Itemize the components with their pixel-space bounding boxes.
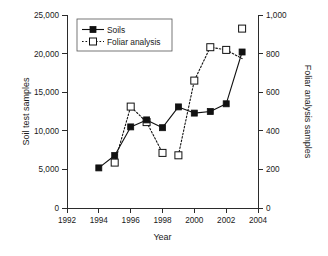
x-tick-label-2000: 2000 bbox=[185, 216, 204, 225]
foliar-point-1999 bbox=[175, 152, 182, 159]
soils-point-1995 bbox=[112, 153, 118, 159]
x-tick-label-1998: 1998 bbox=[153, 216, 172, 225]
soils-point-1998 bbox=[160, 125, 166, 131]
foliar-point-2003 bbox=[239, 25, 246, 32]
foliar-point-2001 bbox=[207, 44, 214, 51]
foliar-point-1998 bbox=[159, 149, 166, 156]
legend-marker-foliar-analysis bbox=[90, 38, 97, 45]
x-tick-label-1996: 1996 bbox=[122, 216, 141, 225]
legend-label-foliar-analysis: Foliar analysis bbox=[107, 37, 161, 47]
foliar-point-1996 bbox=[127, 103, 134, 110]
right-tick-label-0: 0 bbox=[266, 204, 271, 213]
right-tick-label-400: 400 bbox=[266, 127, 280, 136]
y-axis-title: Soil test samples bbox=[21, 77, 31, 146]
soils-point-2002 bbox=[223, 101, 229, 107]
left-tick-label-25000: 25,000 bbox=[34, 11, 59, 20]
right-tick-label-600: 600 bbox=[266, 88, 280, 97]
right-tick-label-800: 800 bbox=[266, 50, 280, 59]
x-tick-label-2004: 2004 bbox=[249, 216, 268, 225]
foliar-point-2000 bbox=[191, 77, 198, 84]
soils-point-1996 bbox=[128, 124, 134, 130]
soils-point-2003 bbox=[239, 49, 245, 55]
right-tick-label-1000: 1,000 bbox=[266, 11, 287, 20]
left-tick-label-10000: 10,000 bbox=[34, 127, 59, 136]
left-tick-label-0: 0 bbox=[54, 204, 59, 213]
x-tick-label-1992: 1992 bbox=[58, 216, 77, 225]
legend-label-soils: Soils bbox=[107, 25, 125, 35]
chart-legend: Soils Foliar analysis bbox=[77, 19, 172, 51]
soils-point-1997 bbox=[144, 117, 150, 123]
legend-item-foliar-analysis: Foliar analysis bbox=[82, 37, 161, 47]
foliar-point-1995 bbox=[111, 159, 118, 166]
soils-point-1994 bbox=[96, 165, 102, 171]
y2-axis-title: Foliar analysis samples bbox=[303, 65, 313, 159]
right-tick-label-200: 200 bbox=[266, 165, 280, 174]
left-tick-label-15000: 15,000 bbox=[34, 88, 59, 97]
x-tick-label-1994: 1994 bbox=[90, 216, 109, 225]
dual-axis-line-chart: 0 5,000 10,000 15,000 20,000 25,000 0 20… bbox=[0, 0, 328, 256]
soils-point-1999 bbox=[175, 104, 181, 110]
x-axis-title: Year bbox=[153, 232, 171, 242]
soils-point-2000 bbox=[191, 110, 197, 116]
legend-marker-soils bbox=[90, 27, 96, 33]
chart-figure: 0 5,000 10,000 15,000 20,000 25,000 0 20… bbox=[0, 0, 328, 256]
soils-point-2001 bbox=[207, 109, 213, 115]
foliar-point-2002 bbox=[223, 46, 230, 53]
x-tick-label-2002: 2002 bbox=[217, 216, 236, 225]
left-tick-label-5000: 5,000 bbox=[39, 165, 60, 174]
left-tick-label-20000: 20,000 bbox=[34, 50, 59, 59]
